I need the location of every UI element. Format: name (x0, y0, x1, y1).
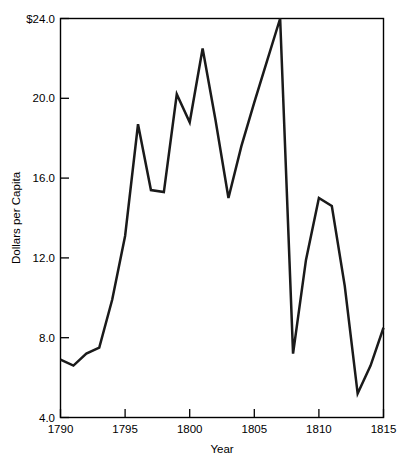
y-tick-label: 16.0 (33, 172, 55, 184)
data-series-line (61, 19, 384, 394)
y-tick-label: 4.0 (39, 412, 55, 424)
y-tick-label: 12.0 (33, 252, 55, 264)
x-tick-label: 1800 (177, 423, 203, 435)
y-tick-label: $24.0 (26, 13, 55, 25)
y-tick-label: 8.0 (39, 332, 55, 344)
x-tick-label: 1795 (112, 423, 138, 435)
x-axis-tick-labels: 1790 1795 1800 1805 1810 1815 (48, 423, 397, 435)
y-tick-label: 20.0 (33, 92, 55, 104)
x-tick-label: 1790 (48, 423, 74, 435)
x-tick-label: 1810 (306, 423, 332, 435)
x-tick-label: 1805 (242, 423, 268, 435)
x-axis-title: Year (210, 443, 233, 455)
line-chart: $24.0 20.0 16.0 12.0 8.0 4.0 1790 1795 1… (0, 0, 406, 463)
y-axis-ticks (61, 19, 70, 418)
chart-container: $24.0 20.0 16.0 12.0 8.0 4.0 1790 1795 1… (0, 0, 406, 463)
x-tick-label: 1815 (371, 423, 397, 435)
y-axis-tick-labels: $24.0 20.0 16.0 12.0 8.0 4.0 (26, 13, 55, 424)
y-axis-title: Dollars per Capita (10, 171, 22, 264)
plot-frame (61, 19, 384, 418)
x-axis-ticks (61, 409, 384, 418)
